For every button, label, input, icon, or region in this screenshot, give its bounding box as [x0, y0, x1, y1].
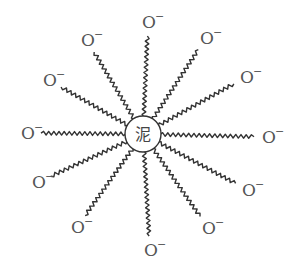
micelle-diagram: O−O−O−O−O−O−O−O−O−O−O−O− 泥: [0, 0, 296, 273]
charge-sign-left: −: [34, 121, 43, 134]
anion-label-left: O: [21, 123, 35, 143]
charge-sign-lower-right-2: −: [215, 216, 224, 229]
anion-label-top: O: [142, 12, 156, 32]
charge-sign-upper-right-2: −: [253, 65, 262, 78]
anion-label-lower-right-1: O: [242, 180, 256, 200]
charge-sign-upper-right-1: −: [213, 26, 222, 39]
charge-sign-lower-left-1: −: [45, 170, 54, 183]
charge-sign-lower-left-2: −: [84, 215, 93, 228]
tail-bottom: [143, 151, 151, 236]
charge-sign-upper-left-1: −: [94, 28, 103, 41]
charge-sign-bottom: −: [157, 238, 166, 251]
anion-label-bottom: O: [144, 240, 158, 260]
core-label: 泥: [135, 125, 151, 144]
anion-label-lower-right-2: O: [202, 218, 216, 238]
charge-sign-upper-left-2: −: [56, 68, 65, 81]
tail-lower-right-1: [158, 142, 236, 184]
anion-label-lower-left-1: O: [32, 172, 46, 192]
anion-label-upper-right-1: O: [200, 28, 214, 48]
tail-right: [160, 133, 254, 139]
anion-label-upper-right-2: O: [240, 67, 254, 87]
tail-left: [41, 131, 126, 135]
anion-label-right: O: [262, 127, 276, 147]
tail-upper-left-2: [61, 87, 128, 126]
anion-label-lower-left-2: O: [71, 217, 85, 237]
tail-lower-left-1: [51, 141, 128, 177]
anion-label-upper-left-1: O: [81, 30, 95, 50]
charge-sign-top: −: [155, 10, 164, 23]
tail-top: [142, 36, 149, 117]
charge-sign-right: −: [275, 125, 284, 138]
anion-label-upper-left-2: O: [43, 70, 57, 90]
charge-sign-lower-right-1: −: [255, 178, 264, 191]
